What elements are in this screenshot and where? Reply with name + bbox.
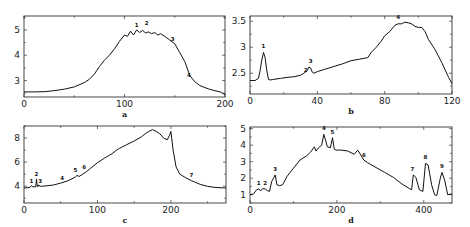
plot-frame [250,127,452,203]
peak-label: 1 [257,180,261,186]
peak-label: 4 [187,72,191,78]
plot-frame [24,126,226,203]
data-curve [24,30,225,95]
peak-label: 5 [74,167,78,173]
y-tick-label: 2.5 [232,68,246,78]
peak-label: 5 [331,129,335,135]
panel-label: b [348,106,354,116]
peak-label: 3 [309,58,313,64]
peak-label: 1 [262,43,266,49]
x-tick-label: 200 [216,99,233,109]
panel-c: 01002004681234567c [14,126,226,225]
peak-label: 3 [38,178,42,184]
data-curve [24,130,226,188]
peak-label: 2 [263,180,267,186]
y-tick-label: 5 [240,124,246,134]
peak-label: 2 [304,67,308,73]
peak-label: 4 [396,14,400,20]
data-curve [250,134,452,195]
panel-label: d [348,215,354,225]
x-tick-label: 40 [312,96,324,106]
peak-label: 6 [82,164,86,170]
panel-d: 020040012345123456789d [240,124,452,225]
x-tick-label: 100 [116,99,133,109]
x-tick-label: 0 [247,96,253,106]
x-tick-label: 80 [379,96,391,106]
y-tick-label: 4 [14,181,20,191]
peak-label: 7 [411,166,415,172]
y-tick-label: 3 [240,157,246,167]
y-tick-label: 3.5 [232,16,246,26]
peak-label: 3 [273,166,277,172]
peak-label: 4 [322,125,326,131]
x-tick-label: 200 [328,205,345,215]
peak-label: 9 [440,163,444,169]
x-tick-label: 400 [415,205,432,215]
panel-label: a [122,109,127,119]
panel-b: 040801202.533.51234b [232,14,461,116]
x-tick-label: 0 [21,99,27,109]
peak-label: 7 [190,172,194,178]
y-tick-label: 6 [14,157,20,167]
peak-label: 4 [60,175,64,181]
y-tick-label: 3 [240,42,246,52]
y-tick-label: 4 [240,140,246,150]
y-tick-label: 8 [14,133,20,143]
figure-canvas: 01002003451234a 040801202.533.51234b 010… [0,0,470,227]
x-tick-label: 200 [162,205,179,215]
y-tick-label: 5 [14,25,20,35]
y-tick-label: 1 [240,190,246,200]
data-curve [250,22,452,83]
peak-label: 2 [145,20,149,26]
panel-a: 01002003451234a [14,16,234,119]
x-tick-label: 120 [443,96,460,106]
x-tick-label: 100 [89,205,106,215]
peak-label: 6 [362,152,366,158]
peak-label: 1 [29,178,33,184]
panel-label: c [123,215,128,225]
x-tick-label: 0 [21,205,27,215]
plot-frame [24,16,225,97]
y-tick-label: 2 [240,173,246,183]
peak-label: 2 [35,171,39,177]
x-tick-label: 0 [247,205,253,215]
peak-label: 1 [135,22,139,28]
peak-label: 3 [171,36,175,42]
peak-label: 8 [424,154,428,160]
y-tick-label: 3 [14,76,20,86]
y-tick-label: 4 [14,50,20,60]
